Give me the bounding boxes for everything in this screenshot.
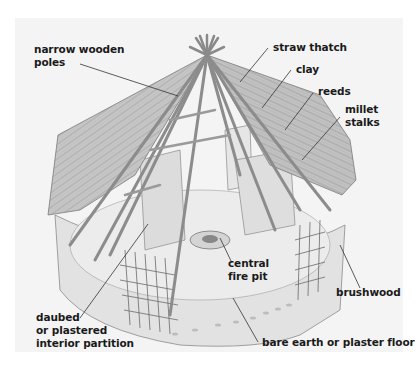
label-narrow-wooden-poles: narrow wooden poles [34, 43, 124, 69]
label-central-fire-pit: central fire pit [228, 257, 269, 283]
label-line: poles [34, 56, 124, 69]
label-line: bare earth or plaster floor [262, 336, 415, 349]
label-line: reeds [318, 85, 351, 98]
label-straw-thatch: straw thatch [273, 41, 347, 54]
label-reeds: reeds [318, 85, 351, 98]
label-line: millet [345, 103, 380, 116]
label-line: fire pit [228, 270, 269, 283]
label-line: brushwood [336, 286, 401, 299]
label-line: clay [296, 63, 319, 76]
label-daubed-partition: daubed or plastered interior partition [36, 311, 134, 350]
label-millet-stalks: millet stalks [345, 103, 380, 129]
label-brushwood: brushwood [336, 286, 401, 299]
label-line: central [228, 257, 269, 270]
label-line: stalks [345, 116, 380, 129]
label-line: straw thatch [273, 41, 347, 54]
apex-bundle [190, 35, 224, 55]
label-line: or plastered [36, 324, 134, 337]
label-floor: bare earth or plaster floor [262, 336, 415, 349]
label-line: interior partition [36, 337, 134, 350]
label-clay: clay [296, 63, 319, 76]
label-line: narrow wooden [34, 43, 124, 56]
label-line: daubed [36, 311, 134, 324]
